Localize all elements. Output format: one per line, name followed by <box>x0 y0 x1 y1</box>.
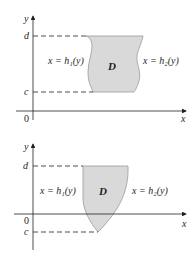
y-axis-label-1: y <box>23 13 29 24</box>
right-curve-label-2: x = h₂(y) <box>131 185 168 197</box>
y-axis-label-2: y <box>23 141 29 152</box>
x-axis-label-2: x <box>181 218 187 229</box>
origin-label-1: 0 <box>24 113 29 124</box>
left-curve-label-1: x = h₁(y) <box>47 55 84 67</box>
origin-label-2: 0 <box>24 215 29 226</box>
c-label-2: c <box>24 226 29 237</box>
region-d-2 <box>83 166 128 232</box>
left-curve-label-2: x = h₁(y) <box>39 185 76 197</box>
right-curve-label-1: x = h₂(y) <box>142 55 179 67</box>
figure-1: y x 0 d c D x = h₁(y) x = h₂(y) <box>16 13 186 124</box>
d-label-1: d <box>24 30 30 41</box>
figure-2: y x 0 d c D x = h₁(y) x = h₂(y) <box>14 141 187 250</box>
x-axis-label-1: x <box>180 113 186 124</box>
d-label-2: d <box>23 160 29 171</box>
c-label-1: c <box>24 86 29 97</box>
region-label-2: D <box>98 185 107 197</box>
diagram-canvas: y x 0 d c D x = h₁(y) x = h₂(y) y x 0 d … <box>0 0 193 261</box>
region-label-1: D <box>107 60 116 72</box>
